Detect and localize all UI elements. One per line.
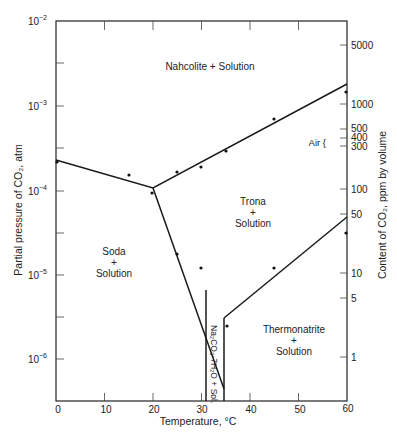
plot-frame	[56, 21, 347, 401]
region-label-nahcolite: Nahcolite + Solution	[165, 61, 254, 72]
x-axis-label: Temperature, °C	[160, 415, 237, 427]
region-label-trona-plus: +	[250, 207, 256, 218]
svg-text:10−2: 10−2	[28, 14, 47, 27]
region-label-thermonatrite: Thermonatrite	[263, 324, 326, 335]
svg-text:5000: 5000	[351, 40, 374, 51]
region-label-soda-plus: +	[111, 257, 117, 268]
data-points	[55, 90, 347, 327]
svg-text:1: 1	[351, 352, 357, 363]
air-annotation: Air {	[309, 137, 326, 148]
region-label-soda: Soda	[102, 246, 126, 257]
nahcolite-boundary	[56, 84, 347, 188]
region-label-soda-solution: Solution	[96, 268, 132, 279]
svg-text:10−4: 10−4	[28, 184, 47, 197]
svg-text:50: 50	[294, 404, 306, 415]
svg-text:1000: 1000	[351, 99, 374, 110]
y-axis-label: Partial pressure of CO₂, atm	[12, 144, 24, 276]
y-tick-labels: 10−2 10−3 10−4 10−5 10−6	[28, 14, 47, 365]
svg-text:30: 30	[196, 404, 208, 415]
region-label-trona-solution: Solution	[235, 218, 271, 229]
y2-tick-labels: 5000 1000 500 400 300 100 50 10 5 1	[351, 40, 374, 363]
region-label-thermonatrite-plus: +	[291, 335, 297, 346]
svg-text:10−3: 10−3	[28, 99, 47, 112]
svg-text:10: 10	[351, 268, 363, 279]
svg-text:50: 50	[351, 209, 363, 220]
region-label-thermonatrite-solution: Solution	[276, 346, 312, 357]
svg-text:60: 60	[342, 403, 354, 414]
svg-text:10−5: 10−5	[28, 268, 47, 281]
svg-text:0: 0	[55, 404, 61, 415]
region-label-heptahydrate: Na₂CO₃·7H₂O + Sol.	[209, 325, 219, 403]
svg-text:20: 20	[148, 404, 160, 415]
x-tick-marks	[105, 21, 299, 401]
svg-text:100: 100	[351, 184, 368, 195]
svg-text:300: 300	[351, 141, 368, 152]
region-label-trona: Trona	[240, 196, 266, 207]
y-tick-marks	[56, 63, 64, 359]
phase-diagram: Nahcolite + Solution Trona + Solution So…	[0, 0, 397, 437]
trona-thermonatrite-boundary	[224, 217, 347, 318]
y2-axis-label: Content of CO₂, ppm by volume	[376, 131, 388, 279]
svg-text:10−6: 10−6	[28, 352, 47, 365]
svg-text:5: 5	[351, 293, 357, 304]
x-tick-labels: 0 10 20 30 40 50 60	[55, 403, 354, 415]
svg-text:40: 40	[245, 404, 257, 415]
svg-text:10: 10	[100, 404, 112, 415]
